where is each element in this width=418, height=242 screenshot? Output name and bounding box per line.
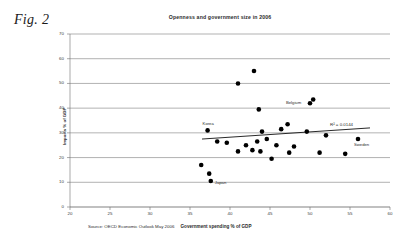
data-point (311, 97, 316, 102)
data-point (274, 143, 279, 148)
data-point (265, 137, 270, 142)
r-squared-annotation: R² = 0.0144 (330, 122, 353, 127)
data-point (199, 163, 204, 168)
data-point (305, 129, 310, 134)
data-point (356, 137, 361, 142)
data-point (236, 149, 241, 154)
y-tick-label: 50 (52, 80, 64, 85)
data-point (324, 133, 329, 138)
data-point (285, 122, 290, 127)
data-point (255, 139, 260, 144)
x-tick-label: 50 (303, 211, 317, 216)
data-point (207, 171, 212, 176)
data-point (258, 149, 263, 154)
x-axis-title: Government spending % of GDP (181, 224, 252, 229)
data-point (205, 128, 210, 133)
data-point (250, 148, 255, 153)
data-point (236, 81, 241, 86)
point-label-korea: Korea (203, 121, 214, 126)
x-tick-label: 55 (343, 211, 357, 216)
data-point (317, 150, 322, 155)
source-note: Source: OECD Economic Outlook May 2006 (88, 224, 174, 229)
point-label-sweden: Sweden (354, 142, 369, 147)
x-tick-label: 45 (263, 211, 277, 216)
y-tick-label: 60 (52, 56, 64, 61)
y-tick-label: 10 (52, 179, 64, 184)
x-tick-label: 25 (103, 211, 117, 216)
data-point (260, 129, 265, 134)
data-point (292, 144, 297, 149)
data-point (215, 139, 220, 144)
data-point (269, 157, 274, 162)
data-point (308, 101, 313, 106)
data-point (209, 179, 214, 184)
x-tick-label: 60 (383, 211, 397, 216)
trendline (202, 128, 370, 139)
y-tick-label: 70 (52, 31, 64, 36)
x-tick-label: 40 (223, 211, 237, 216)
point-label-japan: Japan (215, 180, 226, 185)
x-tick-label: 35 (183, 211, 197, 216)
y-axis-title: Imports % of GDP (62, 108, 67, 145)
data-point (257, 107, 262, 112)
data-point (252, 69, 257, 74)
data-point (287, 150, 292, 155)
data-point (343, 152, 348, 157)
point-label-belgium: Belgium (286, 100, 301, 105)
x-tick-label: 30 (143, 211, 157, 216)
data-point (279, 127, 284, 132)
x-tick-label: 20 (63, 211, 77, 216)
data-point (244, 143, 249, 148)
y-tick-label: 20 (52, 155, 64, 160)
data-point (225, 140, 230, 145)
y-tick-label: 0 (52, 204, 64, 209)
chart-area: Openness and government size in 2006 010… (0, 0, 418, 242)
